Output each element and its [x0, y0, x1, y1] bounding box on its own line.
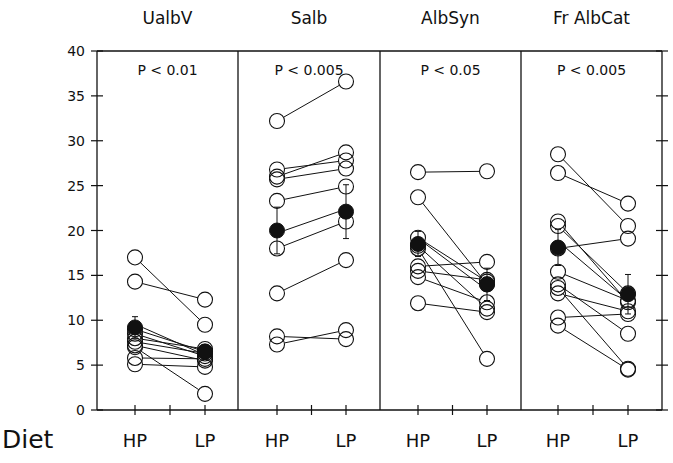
y-tick-label: 35 — [67, 88, 85, 104]
paired-line — [564, 330, 621, 366]
y-tick-label: 25 — [67, 178, 85, 194]
panel-title: AlbSyn — [421, 8, 480, 28]
x-label-hp: HP — [546, 430, 571, 451]
hp-point — [270, 172, 285, 187]
paired-line — [284, 188, 338, 199]
paired-line — [422, 255, 483, 353]
x-label-hp: HP — [123, 430, 148, 451]
x-label-lp: LP — [618, 430, 639, 451]
lp-point — [480, 254, 495, 269]
paired-line — [425, 280, 480, 300]
mean-point — [480, 277, 495, 292]
mean-point — [128, 320, 143, 335]
lp-point — [621, 196, 636, 211]
panel-title: Fr AlbCat — [553, 8, 630, 28]
paired-line — [424, 251, 482, 304]
hp-point — [411, 270, 426, 285]
lp-point — [621, 231, 636, 246]
y-tick-label: 5 — [76, 357, 85, 373]
y-tick-label: 10 — [67, 312, 85, 328]
paired-line — [425, 171, 479, 172]
plot-frame — [97, 51, 662, 415]
paired-scatter-chart: 0510152025303540 UalbVP < 0.01SalbP < 0.… — [0, 0, 673, 463]
paired-line — [284, 85, 340, 117]
mean-point — [270, 223, 285, 238]
hp-point — [551, 147, 566, 162]
p-value-annotation: P < 0.005 — [557, 62, 626, 78]
lp-point — [198, 359, 213, 374]
paired-line — [565, 176, 621, 201]
paired-line — [423, 203, 483, 278]
mean-point — [621, 287, 636, 302]
paired-line — [284, 263, 339, 290]
lp-point — [480, 351, 495, 366]
y-tick-label: 30 — [67, 133, 85, 149]
x-label-lp: LP — [195, 430, 216, 451]
panel-ualbv: UalbVP < 0.01 — [128, 8, 213, 401]
y-tick-label: 0 — [76, 402, 85, 418]
paired-line — [563, 231, 622, 288]
p-value-annotation: P < 0.05 — [420, 62, 480, 78]
mean-point — [551, 240, 566, 255]
panel-title: UalbV — [142, 8, 192, 28]
lp-point — [198, 292, 213, 307]
hp-point — [128, 250, 143, 265]
hp-point — [551, 318, 566, 333]
lp-point — [339, 253, 354, 268]
paired-line — [142, 284, 197, 298]
y-tick-label: 20 — [67, 223, 85, 239]
x-axis-labels: DietHPLPHPLPHPLPHPLP — [2, 425, 639, 454]
hp-point — [128, 274, 143, 289]
diet-axis-label: Diet — [2, 425, 54, 454]
paired-line — [563, 294, 623, 363]
x-label-lp: LP — [477, 430, 498, 451]
hp-point — [411, 165, 426, 180]
paired-line — [425, 304, 479, 311]
mean-line — [566, 248, 621, 295]
p-value-annotation: P < 0.01 — [137, 62, 197, 78]
mean-point — [411, 236, 426, 251]
x-label-lp: LP — [336, 430, 357, 451]
lp-point — [621, 326, 636, 341]
hp-point — [270, 114, 285, 129]
paired-line — [563, 160, 623, 221]
paired-line — [565, 295, 620, 309]
hp-point — [128, 340, 143, 355]
hp-point — [411, 190, 426, 205]
hp-point — [270, 286, 285, 301]
paired-line — [142, 365, 197, 367]
lp-point — [621, 362, 636, 377]
lp-point — [339, 161, 354, 176]
lp-point — [198, 317, 213, 332]
paired-line — [565, 314, 620, 317]
p-value-annotation: P < 0.005 — [274, 62, 343, 78]
hp-point — [270, 193, 285, 208]
hp-point — [128, 357, 143, 372]
x-label-hp: HP — [265, 430, 290, 451]
hp-point — [551, 166, 566, 181]
y-tick-label: 40 — [67, 43, 85, 59]
y-tick-label: 15 — [67, 267, 85, 283]
panel-albsyn: AlbSynP < 0.05 — [411, 8, 495, 366]
lp-point — [339, 74, 354, 89]
lp-point — [339, 323, 354, 338]
panels: UalbVP < 0.01SalbP < 0.005AlbSynP < 0.05… — [128, 8, 636, 401]
lp-point — [339, 145, 354, 160]
panel-fr-albcat: Fr AlbCatP < 0.005 — [551, 8, 636, 377]
lp-point — [480, 305, 495, 320]
mean-point — [339, 204, 354, 219]
hp-point — [411, 296, 426, 311]
x-label-hp: HP — [406, 430, 431, 451]
hp-point — [551, 277, 566, 292]
panel-title: Salb — [291, 8, 328, 28]
mean-point — [198, 344, 213, 359]
lp-point — [198, 386, 213, 401]
lp-point — [480, 164, 495, 179]
panel-salb: SalbP < 0.005 — [270, 8, 354, 352]
hp-point — [270, 337, 285, 352]
